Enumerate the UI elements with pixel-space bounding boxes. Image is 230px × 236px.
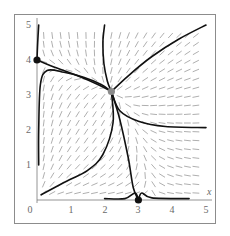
y-tick-3: 3 — [26, 89, 31, 100]
direction-arrow — [184, 132, 191, 133]
y-tick-4: 4 — [26, 54, 31, 65]
x-tick-1: 1 — [69, 204, 74, 215]
phase-portrait-chart: x 0 1 2 3 4 5 1 2 3 4 5 — [0, 0, 230, 236]
x-tick-3: 3 — [136, 204, 141, 215]
equilibrium-stable-node-x-axis-icon — [135, 196, 142, 203]
y-tick-5: 5 — [26, 19, 31, 30]
equilibrium-stable-node-y-axis-icon — [33, 56, 40, 63]
direction-arrow — [184, 114, 191, 115]
y-tick-2: 2 — [26, 124, 31, 135]
x-tick-2: 2 — [103, 204, 108, 215]
x-tick-5: 5 — [204, 204, 209, 215]
x-tick-4: 4 — [170, 204, 175, 215]
x-axis-label: x — [206, 186, 212, 197]
x-tick-0: 0 — [28, 204, 33, 215]
direction-arrow — [86, 41, 87, 48]
direction-arrow — [145, 172, 146, 179]
direction-arrow — [193, 114, 200, 115]
direction-arrow — [44, 32, 45, 39]
y-tick-1: 1 — [26, 159, 31, 170]
equilibrium-saddle-icon — [108, 88, 115, 95]
direction-arrow — [125, 97, 132, 98]
